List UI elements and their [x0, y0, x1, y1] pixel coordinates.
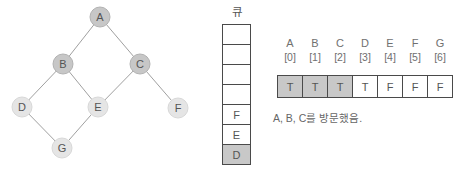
- array-column-A: A[0]T: [277, 36, 303, 98]
- graph-node-A: A: [90, 7, 110, 27]
- queue-cells: FED: [222, 24, 252, 165]
- queue-cell: [222, 44, 251, 65]
- graph-node-F: F: [168, 98, 188, 118]
- array-letter: G: [427, 36, 453, 50]
- array-letter: B: [302, 36, 328, 50]
- queue-cell: F: [222, 104, 251, 125]
- array-column-G: G[6]F: [427, 36, 453, 98]
- array-column-E: E[4]F: [377, 36, 403, 98]
- graph-node-label: B: [59, 58, 66, 70]
- array-index: [5]: [402, 50, 428, 65]
- array-letter: C: [327, 36, 353, 50]
- graph-node-G: G: [52, 138, 72, 158]
- array-letter: D: [352, 36, 378, 50]
- queue-label: 큐: [222, 2, 252, 22]
- array-column-D: D[3]T: [352, 36, 378, 98]
- array-column-B: B[1]T: [302, 36, 328, 98]
- array-value-cell: F: [377, 75, 403, 98]
- array-column-C: C[2]T: [327, 36, 353, 98]
- array-index: [4]: [377, 50, 403, 65]
- array-index: [2]: [327, 50, 353, 65]
- array-index: [1]: [302, 50, 328, 65]
- queue-cell: E: [222, 124, 251, 145]
- array-value-cell-highlighted: T: [277, 75, 303, 98]
- array-index: [3]: [352, 50, 378, 65]
- graph-node-label: G: [58, 142, 67, 154]
- array-value-cell: T: [352, 75, 378, 98]
- queue-cell: [222, 24, 251, 45]
- array-letter: F: [402, 36, 428, 50]
- graph-node-C: C: [130, 54, 150, 74]
- array-value-cell: F: [427, 75, 453, 98]
- queue: 큐 FED: [222, 2, 252, 165]
- graph-node-label: F: [175, 102, 182, 114]
- graph-node-label: E: [94, 101, 101, 113]
- array-index: [6]: [427, 50, 453, 65]
- graph-node-E: E: [88, 97, 108, 117]
- graph-node-D: D: [12, 97, 32, 117]
- array-letter: A: [277, 36, 303, 50]
- array-value-cell-highlighted: T: [302, 75, 328, 98]
- array-index: [0]: [277, 50, 303, 65]
- bfs-diagram: ABCDEFG 큐 FED A[0]TB[1]TC[2]TD[3]TE[4]FF…: [0, 0, 468, 171]
- array-column-F: F[5]F: [402, 36, 428, 98]
- graph-node-B: B: [53, 54, 73, 74]
- queue-cell: [222, 64, 251, 85]
- array-value-cell-highlighted: T: [327, 75, 353, 98]
- visit-status-caption: A, B, C를 방문했음.: [273, 110, 362, 125]
- queue-cell-highlighted: D: [222, 144, 251, 165]
- array-letter: E: [377, 36, 403, 50]
- array-value-cell: F: [402, 75, 428, 98]
- graph-node-label: C: [136, 58, 144, 70]
- visited-array: A[0]TB[1]TC[2]TD[3]TE[4]FF[5]FG[6]F: [277, 36, 453, 98]
- graph-node-label: A: [96, 11, 104, 23]
- queue-cell: [222, 84, 251, 105]
- graph-canvas: ABCDEFG: [0, 0, 210, 171]
- graph-node-label: D: [18, 101, 26, 113]
